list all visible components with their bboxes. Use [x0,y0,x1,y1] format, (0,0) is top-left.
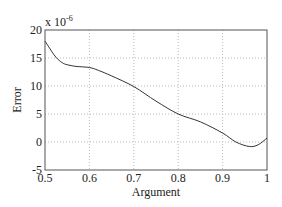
x-tick-label: 0.8 [171,171,186,185]
chart: 0.50.60.70.80.91 -505101520 x 10-6 Argum… [0,0,282,207]
y-tick-label: 5 [36,107,42,121]
x-tick-label: 0.7 [126,171,141,185]
y-multiplier: x 10-6 [45,14,73,29]
grid-lines [45,30,267,170]
x-tick-label: 1 [264,171,270,185]
y-axis-label: Error [10,87,24,112]
plot-frame [45,30,267,170]
y-tick-label: 15 [30,51,42,65]
x-tick-label: 0.6 [82,171,97,185]
error-curve [45,41,267,146]
x-tick-label: 0.9 [215,171,230,185]
y-tick-label: 10 [30,79,42,93]
y-tick-label: 0 [36,135,42,149]
x-axis-label: Argument [132,185,181,199]
y-tick-label: -5 [32,163,42,177]
y-tick-labels: -505101520 [30,23,42,177]
y-tick-label: 20 [30,23,42,37]
x-tick-labels: 0.50.60.70.80.91 [38,171,271,185]
